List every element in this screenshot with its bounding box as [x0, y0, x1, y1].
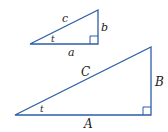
small-hypotenuse-label: c: [62, 12, 68, 25]
large-vertical-label: B: [154, 75, 164, 89]
large-horizontal-label: A: [83, 117, 93, 131]
small-vertical-label: b: [101, 21, 108, 34]
small-angle-label: t: [51, 34, 55, 44]
large-triangle: C B A t: [15, 47, 164, 131]
large-angle-label: t: [40, 104, 44, 114]
small-horizontal-label: a: [68, 46, 75, 59]
small-right-angle-marker: [90, 36, 98, 44]
large-triangle-shape: [15, 47, 151, 115]
small-triangle: c b a t: [30, 10, 108, 59]
similar-triangles-diagram: c b a t C B A t: [0, 0, 168, 132]
large-hypotenuse-label: C: [81, 65, 90, 79]
large-right-angle-marker: [143, 107, 151, 115]
